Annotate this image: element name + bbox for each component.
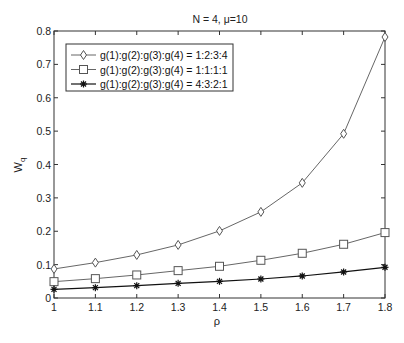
square-marker — [133, 271, 141, 279]
y-tick-label: 0.6 — [36, 92, 51, 104]
x-tick-label: 1.8 — [378, 301, 393, 313]
y-tick-label: 0 — [45, 292, 51, 304]
chart: N = 4, μ=10 11.11.21.31.41.51.61.71.8 00… — [0, 0, 404, 343]
y-tick-label: 0.2 — [36, 225, 51, 237]
star-marker — [299, 272, 306, 279]
square-marker — [257, 256, 265, 264]
x-tick-label: 1.1 — [88, 301, 103, 313]
square-marker — [91, 275, 99, 283]
square-marker — [174, 267, 182, 275]
star-marker — [382, 264, 389, 271]
y-axis-label: Wq — [12, 158, 27, 173]
legend-label: g(1):g(2):g(3):g(4) = 4:3:2:1 — [100, 78, 228, 90]
star-marker — [175, 280, 182, 287]
x-tick-label: 1.6 — [295, 301, 310, 313]
y-tick-label: 0.5 — [36, 125, 51, 137]
star-marker — [257, 275, 264, 282]
star-marker — [92, 284, 99, 291]
svg-text:Wq: Wq — [12, 158, 27, 173]
y-tick-label: 0.4 — [36, 159, 51, 171]
legend: g(1):g(2):g(3):g(4) = 1:2:3:4g(1):g(2):g… — [66, 44, 233, 91]
square-marker — [216, 262, 224, 270]
square-marker — [80, 66, 88, 74]
x-tick-label: 1 — [51, 301, 57, 313]
star-marker — [51, 286, 58, 293]
y-axis-label-subscript: q — [18, 158, 27, 162]
square-marker — [298, 249, 306, 257]
star-marker — [80, 81, 87, 88]
x-axis-label: ρ — [214, 315, 220, 327]
square-marker — [381, 229, 389, 237]
star-marker — [216, 278, 223, 285]
y-tick-label: 0.7 — [36, 58, 51, 70]
x-tick-label: 1.3 — [171, 301, 186, 313]
x-axis-tick-labels: 11.11.21.31.41.51.61.71.8 — [51, 301, 392, 313]
star-marker — [133, 282, 140, 289]
legend-label: g(1):g(2):g(3):g(4) = 1:1:1:1 — [100, 64, 228, 76]
chart-title: N = 4, μ=10 — [192, 13, 247, 25]
square-marker — [340, 240, 348, 248]
y-tick-label: 0.3 — [36, 192, 51, 204]
x-tick-label: 1.7 — [336, 301, 351, 313]
y-axis-tick-labels: 00.10.20.30.40.50.60.70.8 — [36, 25, 51, 304]
x-tick-label: 1.5 — [254, 301, 269, 313]
y-tick-label: 0.8 — [36, 25, 51, 37]
y-axis-label-main: W — [12, 161, 24, 172]
legend-label: g(1):g(2):g(3):g(4) = 1:2:3:4 — [100, 49, 228, 61]
line-chart: N = 4, μ=10 11.11.21.31.41.51.61.71.8 00… — [0, 0, 404, 343]
y-tick-label: 0.1 — [36, 259, 51, 271]
x-tick-label: 1.2 — [129, 301, 144, 313]
x-tick-label: 1.4 — [212, 301, 227, 313]
square-marker — [50, 278, 58, 286]
star-marker — [340, 268, 347, 275]
